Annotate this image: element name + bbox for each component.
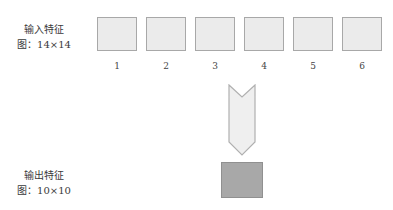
feature-map-number: 6 (342, 61, 382, 71)
feature-map-3 (195, 17, 235, 51)
feature-map-number: 4 (244, 61, 284, 71)
feature-map-2 (146, 17, 186, 51)
feature-map-number: 5 (293, 61, 333, 71)
feature-map-6 (342, 17, 382, 51)
output-size: 图：10×10 (14, 183, 74, 198)
feature-map-4 (244, 17, 284, 51)
feature-map-1 (97, 17, 137, 51)
output-title: 输出特征 (14, 168, 74, 183)
input-title: 输入特征 (14, 22, 74, 37)
input-size: 图：14×14 (14, 37, 74, 52)
feature-map-number: 3 (195, 61, 235, 71)
feature-map-number: 2 (146, 61, 186, 71)
feature-map-5 (293, 17, 333, 51)
output-feature-map (221, 162, 263, 198)
down-arrow-icon (228, 84, 256, 156)
feature-map-number: 1 (97, 61, 137, 71)
input-feature-label: 输入特征 图：14×14 (14, 22, 74, 52)
output-feature-label: 输出特征 图：10×10 (14, 168, 74, 198)
